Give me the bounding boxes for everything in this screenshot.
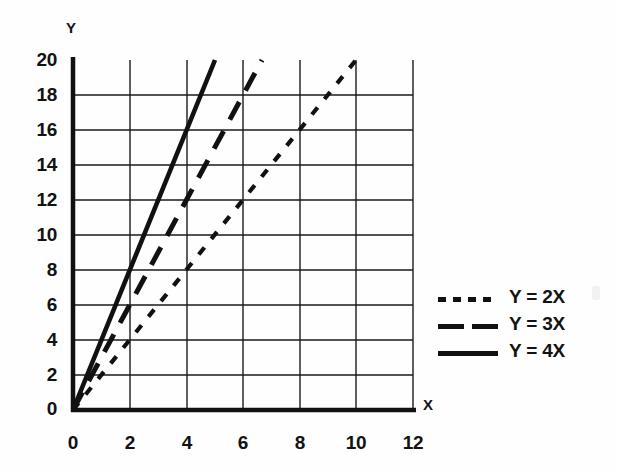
legend-swatch-solid — [437, 351, 499, 356]
x-tick-label-4: 4 — [165, 432, 209, 454]
chart-plot-svg — [0, 0, 617, 472]
y-tick-label-6: 6 — [13, 294, 57, 316]
x-tick-label-0: 0 — [51, 432, 95, 454]
legend-swatch-dotted — [437, 297, 499, 302]
line-chart-figure: Y X 20 18 16 14 12 10 8 6 4 2 0 0 2 4 6 … — [0, 0, 617, 472]
y-tick-label-18: 18 — [13, 84, 57, 106]
x-tick-label-10: 10 — [334, 432, 378, 454]
legend-label-y-2x: Y = 2X — [509, 286, 565, 308]
y-tick-label-16: 16 — [13, 119, 57, 141]
x-axis-title: X — [423, 396, 433, 413]
legend-entry-y-3x: Y = 3X — [437, 313, 597, 340]
x-tick-label-6: 6 — [221, 432, 265, 454]
legend-label-y-4x: Y = 4X — [509, 340, 565, 362]
legend-entry-y-4x: Y = 4X — [437, 340, 597, 367]
gridlines-group — [73, 60, 413, 410]
legend-label-y-3x: Y = 3X — [509, 313, 565, 335]
y-tick-label-10: 10 — [13, 224, 57, 246]
y-tick-label-14: 14 — [13, 154, 57, 176]
y-tick-label-8: 8 — [13, 259, 57, 281]
legend-swatch-dashed — [437, 324, 499, 329]
y-tick-label-20: 20 — [13, 49, 57, 71]
legend-entry-y-2x: Y = 2X — [437, 286, 597, 313]
y-tick-label-0: 0 — [13, 398, 57, 420]
y-tick-label-4: 4 — [13, 329, 57, 351]
y-axis-title: Y — [66, 19, 76, 36]
scan-artifact — [592, 286, 600, 300]
chart-page: Y X 20 18 16 14 12 10 8 6 4 2 0 0 2 4 6 … — [0, 0, 617, 472]
x-tick-label-8: 8 — [278, 432, 322, 454]
y-tick-label-2: 2 — [13, 364, 57, 386]
chart-legend: Y = 2X Y = 3X Y = 4X — [437, 286, 597, 367]
x-tick-label-12: 12 — [391, 432, 435, 454]
y-tick-label-12: 12 — [13, 189, 57, 211]
x-tick-label-2: 2 — [108, 432, 152, 454]
